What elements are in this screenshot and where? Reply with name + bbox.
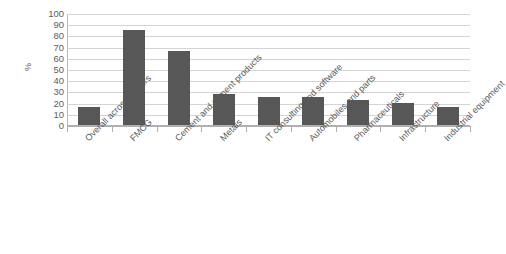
- y-tick-label: 40: [36, 76, 64, 86]
- y-tick-label: 10: [36, 110, 64, 120]
- x-category-tick: [201, 126, 202, 132]
- x-category-tick: [67, 126, 68, 132]
- y-tick-label: 0: [36, 121, 64, 131]
- x-category-tick: [470, 126, 471, 132]
- x-category-tick: [246, 126, 247, 132]
- x-category-tick: [112, 126, 113, 132]
- x-category-tick: [425, 126, 426, 132]
- x-category-tick: [157, 126, 158, 132]
- x-category-tick: [336, 126, 337, 132]
- x-category-tick: [380, 126, 381, 132]
- bar: [258, 97, 280, 125]
- y-tick-label: 70: [36, 43, 64, 53]
- x-category-tick: [291, 126, 292, 132]
- y-tick-label: 60: [36, 54, 64, 64]
- y-axis-ticks: 1009080706050403020100: [36, 14, 64, 126]
- y-tick-label: 30: [36, 88, 64, 98]
- y-tick-label: 80: [36, 32, 64, 42]
- y-axis-title: %: [23, 55, 33, 79]
- plot-area: [67, 14, 470, 126]
- bar-series: [67, 14, 470, 126]
- y-tick-label: 90: [36, 20, 64, 30]
- y-tick-label: 100: [36, 9, 64, 19]
- y-tick-label: 20: [36, 99, 64, 109]
- bar: [168, 51, 190, 125]
- y-tick-label: 50: [36, 65, 64, 75]
